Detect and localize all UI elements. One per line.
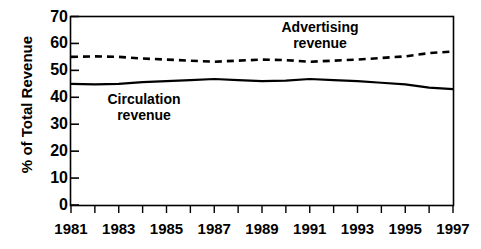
annotation-advertising-revenue: Advertising revenue [250,20,390,51]
x-tick-label: 1993 [341,221,374,236]
x-tick-label: 1981 [54,221,87,236]
x-tick-label: 1989 [245,221,278,236]
annotation-circulation-line1: Circulation [107,91,180,107]
annotation-circulation-line2: revenue [117,107,171,123]
x-tick-label: 1983 [102,221,135,236]
x-tick-label: 1985 [150,221,183,236]
annotation-advertising-line1: Advertising [281,19,358,35]
chart-figure: % of Total Revenue 010203040506070 19811… [0,0,481,249]
x-tick-label: 1987 [198,221,231,236]
annotation-circulation-revenue: Circulation revenue [80,92,208,123]
x-tick-label: 1991 [293,221,326,236]
x-axis-tick-labels: 198119831985198719891991199319951997 [0,0,481,249]
x-tick-label: 1997 [436,221,469,236]
annotation-advertising-line2: revenue [293,35,347,51]
x-tick-label: 1995 [389,221,422,236]
